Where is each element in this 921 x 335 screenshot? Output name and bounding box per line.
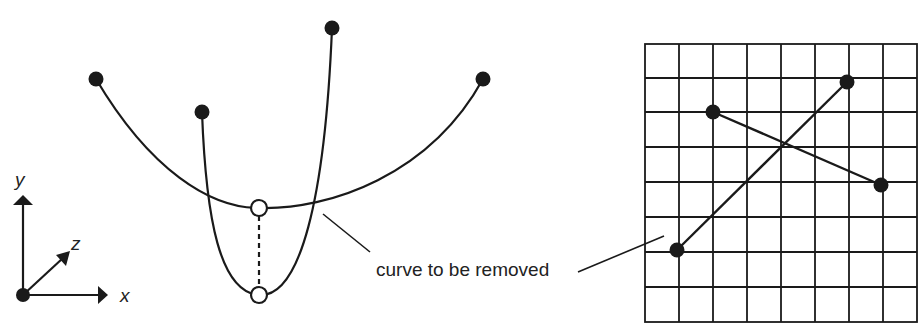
axes-icon (23, 205, 100, 295)
callout-leader-right (578, 236, 664, 272)
wide-curve (96, 79, 483, 208)
open-point-lower (251, 287, 267, 303)
control-points (89, 21, 491, 120)
axis-arrowheads (13, 195, 108, 304)
narrow-curve (202, 28, 332, 295)
z-axis-label: z (70, 233, 81, 254)
diagram-canvas: y z x curve to be removed (0, 0, 921, 335)
x-axis-label: x (119, 285, 131, 306)
origin-point (16, 288, 30, 302)
grid-points (670, 75, 889, 258)
open-point-upper (251, 200, 267, 216)
y-axis-label: y (13, 169, 26, 190)
callout-label: curve to be removed (376, 259, 549, 280)
callout-leader-left (323, 214, 370, 252)
